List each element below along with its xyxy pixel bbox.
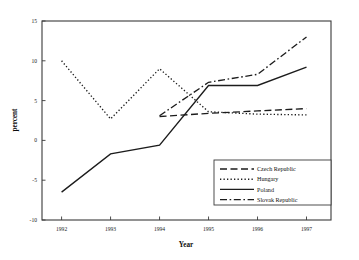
legend-label-poland: Poland xyxy=(257,187,274,193)
x-axis-ticks: 199219931994199519961997 xyxy=(56,217,312,233)
chart-svg: -10-5051015 199219931994199519961997 Yea… xyxy=(0,0,359,260)
y-tick-label: -5 xyxy=(32,177,37,183)
x-tick-label: 1995 xyxy=(203,226,214,232)
y-axis-title: percent xyxy=(11,108,19,132)
y-tick-label: 5 xyxy=(34,98,37,104)
y-axis-ticks: -10-5051015 xyxy=(30,18,46,223)
x-tick-label: 1994 xyxy=(154,226,165,232)
x-tick-label: 1996 xyxy=(252,226,263,232)
legend-label-czech-republic: Czech Republic xyxy=(257,166,296,172)
x-axis-title: Year xyxy=(179,241,194,249)
y-tick-label: 0 xyxy=(34,137,37,143)
x-tick-label: 1992 xyxy=(56,226,67,232)
legend-label-hungary: Hungary xyxy=(257,176,279,182)
x-tick-label: 1993 xyxy=(105,226,116,232)
legend-label-slovak-republic: Slovak Republic xyxy=(257,197,298,203)
series-line-slovak-republic xyxy=(160,37,307,116)
y-tick-label: 10 xyxy=(31,58,37,64)
y-tick-label: 15 xyxy=(31,18,37,24)
y-tick-label: -10 xyxy=(30,217,38,223)
line-chart: -10-5051015 199219931994199519961997 Yea… xyxy=(0,0,359,260)
x-tick-label: 1997 xyxy=(301,226,312,232)
legend: Czech RepublicHungaryPolandSlovak Republ… xyxy=(214,160,331,205)
